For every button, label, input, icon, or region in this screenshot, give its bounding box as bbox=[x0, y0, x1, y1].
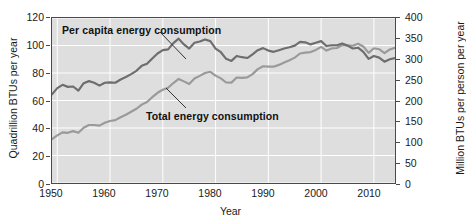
ytick-right-250: 250 bbox=[405, 75, 445, 86]
annotation-total: Total energy consumption bbox=[146, 110, 279, 122]
tickmark-right-400 bbox=[396, 17, 400, 18]
ytick-right-400: 400 bbox=[405, 12, 445, 23]
ytick-right-100: 100 bbox=[405, 137, 445, 148]
ytick-left-120: 120 bbox=[2, 12, 44, 23]
tickmark-right-350 bbox=[396, 38, 400, 39]
xtick-1980: 1980 bbox=[188, 188, 232, 199]
ytick-right-0: 0 bbox=[405, 179, 445, 190]
annotation-per-capita: Per capita energy consumption bbox=[62, 24, 221, 36]
ytick-right-50: 50 bbox=[405, 158, 445, 169]
ytick-right-150: 150 bbox=[405, 116, 445, 127]
tickmark-left-100 bbox=[46, 45, 50, 46]
tickmark-right-300 bbox=[396, 59, 400, 60]
xtick-1970: 1970 bbox=[135, 188, 179, 199]
xtick-1950: 1950 bbox=[29, 188, 73, 199]
x-axis-title: Year bbox=[0, 205, 461, 217]
ytick-right-350: 350 bbox=[405, 33, 445, 44]
tickmark-left-20 bbox=[46, 156, 50, 157]
series-line-per-capita-energy-consumption bbox=[52, 39, 395, 95]
tickmark-right-0 bbox=[396, 184, 400, 185]
tickmark-right-50 bbox=[396, 163, 400, 164]
y-axis-right-title: Million BTUs per person per year bbox=[454, 8, 466, 188]
data-series-layer bbox=[52, 18, 395, 183]
tickmark-right-150 bbox=[396, 121, 400, 122]
plot-area bbox=[51, 17, 396, 184]
xtick-2000: 2000 bbox=[294, 188, 338, 199]
tickmark-left-120 bbox=[46, 17, 50, 18]
xtick-1960: 1960 bbox=[82, 188, 126, 199]
tickmark-left-0 bbox=[46, 184, 50, 185]
ytick-right-300: 300 bbox=[405, 54, 445, 65]
tickmark-right-250 bbox=[396, 80, 400, 81]
tickmark-right-100 bbox=[396, 142, 400, 143]
xtick-2010: 2010 bbox=[347, 188, 391, 199]
xtick-1990: 1990 bbox=[241, 188, 285, 199]
y-axis-left-title: Quadrillion BTUs per year bbox=[7, 28, 19, 168]
ytick-right-200: 200 bbox=[405, 96, 445, 107]
tickmark-right-200 bbox=[396, 101, 400, 102]
tickmark-left-60 bbox=[46, 101, 50, 102]
tickmark-left-80 bbox=[46, 73, 50, 74]
tickmark-left-40 bbox=[46, 128, 50, 129]
series-line-total-energy-consumption bbox=[52, 44, 395, 139]
